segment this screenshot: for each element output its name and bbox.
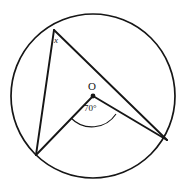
central-angle-label: 70° — [84, 104, 97, 113]
radius-o-to-c — [93, 96, 167, 140]
center-point-dot — [91, 94, 96, 99]
center-label-o: O — [88, 81, 96, 92]
circle-geometry-diagram — [0, 0, 183, 194]
geometry-figure: x O 70° — [0, 0, 183, 194]
chord-a-to-c — [54, 30, 167, 140]
chord-a-to-b — [36, 30, 54, 155]
central-angle-arc — [71, 114, 116, 127]
inscribed-angle-label-x: x — [54, 36, 58, 45]
